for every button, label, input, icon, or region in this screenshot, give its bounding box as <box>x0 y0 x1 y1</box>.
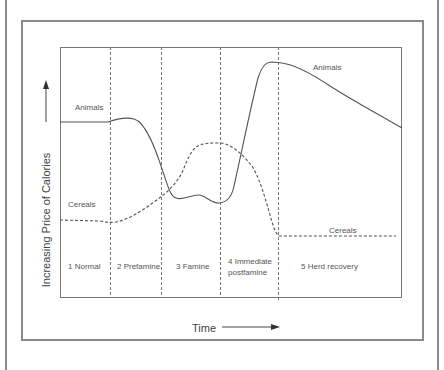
phase-label-5: 5 Herd recovery <box>301 261 358 272</box>
label-cereals-right: Cereals <box>329 226 357 235</box>
phase-label-4: 4 Immediate postfamine <box>228 256 272 278</box>
phase-label-1: 1 Normal <box>68 261 100 272</box>
x-axis-title: Time <box>192 322 216 334</box>
y-axis-arrow <box>43 80 49 122</box>
label-cereals-left: Cereals <box>68 200 96 209</box>
phase-label-3: 3 Famine <box>176 261 209 272</box>
phase-label-2: 2 Prefamine <box>117 261 160 272</box>
x-axis-arrow <box>222 324 280 330</box>
y-axis-title: Increasing Price of Calories <box>40 153 52 288</box>
phase-label-4-line1: 4 Immediate <box>228 256 272 267</box>
phase-label-4-line2: postfamine <box>228 267 272 278</box>
label-animals-left: Animals <box>75 103 103 112</box>
animals-line <box>60 62 402 203</box>
chart-canvas <box>0 0 444 370</box>
label-animals-right: Animals <box>313 63 341 72</box>
